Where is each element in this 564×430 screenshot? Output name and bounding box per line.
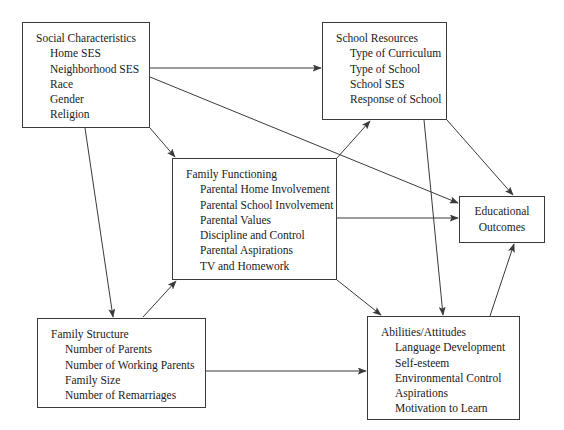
node-title-line-1: Educational <box>475 204 530 219</box>
list-item: Neighborhood SES <box>50 62 139 77</box>
node-content: School Resources Type of Curriculum Type… <box>336 31 441 107</box>
node-item-list: Language Development Self-esteem Environ… <box>395 340 505 416</box>
node-educational-outcomes[interactable]: Educational Outcomes <box>459 196 545 243</box>
node-title: School Resources <box>336 31 441 46</box>
edge-family-functioning-to-school <box>337 121 370 158</box>
list-item: Discipline and Control <box>200 228 334 243</box>
list-item: Religion <box>50 107 139 122</box>
list-item: School SES <box>350 77 441 92</box>
node-item-list: Type of Curriculum Type of School School… <box>350 46 441 107</box>
node-content: Family Functioning Parental Home Involve… <box>186 167 334 274</box>
list-item: Aspirations <box>395 386 505 401</box>
node-abilities-attitudes[interactable]: Abilities/Attitudes Language Development… <box>367 316 520 420</box>
node-title: Family Functioning <box>186 167 334 182</box>
node-content: Educational Outcomes <box>460 197 544 242</box>
list-item: Motivation to Learn <box>395 401 505 416</box>
list-item: Home SES <box>50 46 139 61</box>
edge-family-functioning-to-abilities <box>337 280 381 315</box>
node-title-line-2: Outcomes <box>479 220 526 235</box>
list-item: Number of Working Parents <box>65 358 195 373</box>
node-title: Abilities/Attitudes <box>381 325 505 340</box>
list-item: Parental Aspirations <box>200 243 334 258</box>
list-item: Response of School <box>350 92 441 107</box>
edge-social-to-family-functioning <box>150 128 175 157</box>
node-content: Social Characteristics Home SES Neighbor… <box>36 31 139 123</box>
node-family-structure[interactable]: Family Structure Number of Parents Numbe… <box>37 318 206 408</box>
node-item-list: Parental Home Involvement Parental Schoo… <box>200 182 334 274</box>
edge-school-to-edu-outcomes <box>447 120 513 195</box>
list-item: Number of Remarriages <box>65 388 195 403</box>
edge-social-to-family-structure <box>85 128 113 317</box>
diagram-canvas: Social Characteristics Home SES Neighbor… <box>0 0 564 430</box>
list-item: Family Size <box>65 373 195 388</box>
list-item: Self-esteem <box>395 356 505 371</box>
list-item: Environmental Control <box>395 371 505 386</box>
node-item-list: Number of Parents Number of Working Pare… <box>65 342 195 403</box>
list-item: Number of Parents <box>65 342 195 357</box>
list-item: Language Development <box>395 340 505 355</box>
node-content: Family Structure Number of Parents Numbe… <box>51 327 195 403</box>
list-item: Parental Values <box>200 213 334 228</box>
node-title: Social Characteristics <box>36 31 139 46</box>
node-family-functioning[interactable]: Family Functioning Parental Home Involve… <box>172 158 337 280</box>
list-item: Gender <box>50 92 139 107</box>
list-item: Parental School Involvement <box>200 198 334 213</box>
node-content: Abilities/Attitudes Language Development… <box>381 325 505 417</box>
list-item: Type of Curriculum <box>350 46 441 61</box>
node-social-characteristics[interactable]: Social Characteristics Home SES Neighbor… <box>22 22 150 128</box>
node-school-resources[interactable]: School Resources Type of Curriculum Type… <box>322 22 447 120</box>
list-item: TV and Homework <box>200 259 334 274</box>
edge-family-structure-to-family-functioning <box>143 281 176 317</box>
list-item: Type of School <box>350 62 441 77</box>
list-item: Race <box>50 77 139 92</box>
edge-abilities-to-edu-outcomes <box>490 244 514 316</box>
node-title: Family Structure <box>51 327 195 342</box>
node-item-list: Home SES Neighborhood SES Race Gender Re… <box>50 46 139 122</box>
list-item: Parental Home Involvement <box>200 182 334 197</box>
